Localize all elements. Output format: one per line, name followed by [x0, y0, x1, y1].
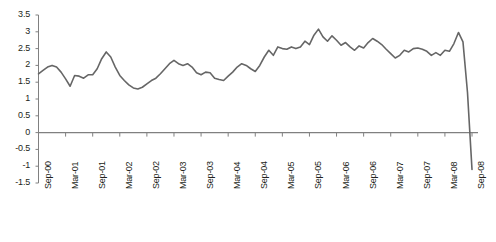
- y-axis-label-7: 0: [0, 128, 30, 137]
- x-axis-label-12: Sep-06: [368, 161, 378, 189]
- y-axis-label-5: 1: [0, 94, 30, 103]
- y-axis-label-4: 1.5: [0, 77, 30, 86]
- y-axis-label-3: 2: [0, 60, 30, 69]
- y-axis-label-1: 3: [0, 27, 30, 36]
- data-line-series-1: [39, 29, 473, 169]
- y-axis-label-9: -1: [0, 161, 30, 170]
- y-axis-label-0: 3.5: [0, 10, 30, 19]
- y-axis-label-6: 0.5: [0, 111, 30, 120]
- x-axis-label-15: Mar-08: [449, 162, 459, 189]
- x-axis-label-3: Mar-02: [124, 162, 134, 189]
- x-axis-label-6: Sep-03: [205, 161, 215, 189]
- x-axis-label-14: Sep-07: [422, 161, 432, 189]
- x-axis-label-5: Mar-03: [178, 162, 188, 189]
- x-axis-label-16: Sep-08: [476, 161, 486, 189]
- x-axis-label-7: Mar-04: [232, 162, 242, 189]
- x-axis-label-13: Mar-07: [395, 162, 405, 189]
- y-axis-label-10: -1.5: [0, 178, 30, 187]
- x-axis-label-11: Mar-06: [341, 162, 351, 189]
- x-axis-label-4: Sep-02: [151, 161, 161, 189]
- line-chart: 3.532.521.510.50-0.5-1-1.5 Sep-00Mar-01S…: [0, 0, 496, 242]
- chart-plot-area: [0, 0, 496, 242]
- x-axis-label-8: Sep-04: [259, 161, 269, 189]
- y-axis-label-2: 2.5: [0, 44, 30, 53]
- x-axis-label-10: Sep-05: [313, 161, 323, 189]
- x-axis-label-2: Sep-01: [97, 161, 107, 189]
- y-axis-label-8: -0.5: [0, 144, 30, 153]
- x-axis-label-1: Mar-01: [70, 162, 80, 189]
- x-axis-label-0: Sep-00: [43, 161, 53, 189]
- x-axis-label-9: Mar-05: [286, 162, 296, 189]
